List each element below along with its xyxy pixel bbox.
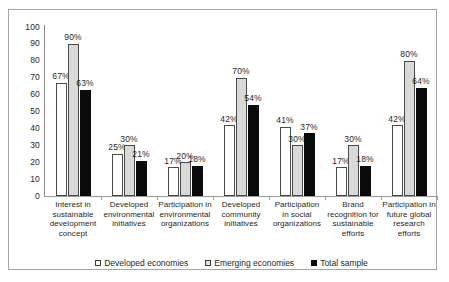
bar-value-label: 41%	[273, 116, 297, 125]
category-label-line: Interest in	[45, 200, 101, 210]
bar	[168, 167, 179, 196]
bar-value-label: 18%	[185, 155, 209, 164]
category-label-line: community	[213, 210, 269, 220]
y-axis-tick-20: 20	[14, 158, 40, 167]
bar	[180, 162, 191, 196]
category-label-line: sustainable	[45, 210, 101, 220]
x-axis-category-label: Brandrecognition forsustainableefforts	[325, 200, 381, 238]
bar-value-label: 30%	[117, 135, 141, 144]
bar	[68, 44, 79, 196]
x-axis-category-label: Participation inenvironmentalorganizatio…	[157, 200, 213, 229]
y-axis-tick-60: 60	[14, 90, 40, 99]
category-label-line: organizations	[269, 219, 325, 229]
category-label-line: sustainable	[325, 219, 381, 229]
y-axis-tick-labels: 1009080706050403020100	[9, 10, 40, 196]
category-label-line: research efforts	[381, 219, 437, 238]
y-axis-tick-70: 70	[14, 73, 40, 82]
bar-group: 17%30%18%	[325, 27, 381, 196]
bar	[56, 83, 67, 196]
category-label-line: Brand	[325, 200, 381, 210]
bar	[248, 105, 259, 196]
bar	[416, 88, 427, 196]
legend-label: Developed economies	[104, 258, 188, 268]
x-axis-category-labels: Interest insustainabledevelopmentconcept…	[45, 200, 437, 248]
x-axis-category-label: Developedenvironmentalinitiatives	[101, 200, 157, 229]
x-axis-tick	[157, 196, 158, 200]
y-axis-tick-30: 30	[14, 141, 40, 150]
bar	[224, 125, 235, 196]
chart-frame: 1009080706050403020100 67%90%63%25%30%21…	[8, 9, 437, 270]
category-label-line: concept	[45, 229, 101, 239]
legend-swatch-icon	[205, 260, 211, 266]
bar-value-label: 90%	[61, 33, 85, 42]
bar	[360, 166, 371, 196]
bar-group: 42%70%54%	[213, 27, 269, 196]
y-axis-tick-40: 40	[14, 124, 40, 133]
bar-value-label: 54%	[241, 94, 265, 103]
category-label-line: future global	[381, 210, 437, 220]
bar-group: 67%90%63%	[45, 27, 101, 196]
bar	[304, 133, 315, 196]
bar-group: 17%20%18%	[157, 27, 213, 196]
x-axis-tick	[269, 196, 270, 200]
y-axis-tick-50: 50	[14, 107, 40, 116]
bar-value-label: 80%	[397, 50, 421, 59]
legend-swatch-icon	[95, 260, 101, 266]
bar-group: 25%30%21%	[101, 27, 157, 196]
bar-group: 41%30%37%	[269, 27, 325, 196]
x-axis-tick	[381, 196, 382, 200]
bar	[348, 145, 359, 196]
category-label-line: Participation in	[381, 200, 437, 210]
bar-value-label: 63%	[73, 79, 97, 88]
chart-legend: Developed economiesEmerging economiesTot…	[17, 255, 446, 271]
legend-item-developed-economies[interactable]: Developed economies	[95, 258, 188, 268]
y-axis-tick-90: 90	[14, 39, 40, 48]
bar-value-label: 64%	[409, 77, 433, 86]
bar-value-label: 21%	[129, 150, 153, 159]
category-label-line: Participation	[269, 200, 325, 210]
bar-value-label: 37%	[297, 123, 321, 132]
category-label-line: recognition for	[325, 210, 381, 220]
legend-label: Emerging economies	[214, 258, 294, 268]
x-axis-tick	[437, 196, 438, 200]
y-axis-tick-100: 100	[14, 23, 40, 32]
bar-value-label: 18%	[353, 155, 377, 164]
x-axis-category-label: Participation infuture globalresearch ef…	[381, 200, 437, 238]
bar	[392, 125, 403, 196]
x-axis-category-label: Interest insustainabledevelopmentconcept	[45, 200, 101, 238]
bar	[192, 166, 203, 196]
bar-groups: 67%90%63%25%30%21%17%20%18%42%70%54%41%3…	[45, 27, 437, 196]
x-axis-category-label: Participationin socialorganizations	[269, 200, 325, 229]
y-axis-tick-0: 0	[14, 192, 40, 201]
x-axis-category-label: Developedcommunityinitiatives	[213, 200, 269, 229]
bar-value-label: 30%	[341, 135, 365, 144]
category-label-line: in social	[269, 210, 325, 220]
category-label-line: Developed	[101, 200, 157, 210]
bar	[80, 90, 91, 196]
bar	[336, 167, 347, 196]
category-label-line: organizations	[157, 219, 213, 229]
category-label-line: environmental	[101, 210, 157, 220]
x-axis-baseline	[45, 196, 437, 197]
chart-figure: 1009080706050403020100 67%90%63%25%30%21…	[0, 0, 449, 282]
legend-item-total-sample[interactable]: Total sample	[311, 258, 368, 268]
bar-group: 42%80%64%	[381, 27, 437, 196]
bar	[292, 145, 303, 196]
bar	[112, 154, 123, 196]
category-label-line: development	[45, 219, 101, 229]
category-label-line: environmental	[157, 210, 213, 220]
y-axis-tick-10: 10	[14, 175, 40, 184]
bar	[136, 161, 147, 196]
x-axis-tick	[325, 196, 326, 200]
x-axis-tick	[213, 196, 214, 200]
legend-label: Total sample	[320, 258, 368, 268]
legend-item-emerging-economies[interactable]: Emerging economies	[205, 258, 294, 268]
category-label-line: Developed	[213, 200, 269, 210]
legend-swatch-icon	[311, 260, 317, 266]
category-label-line: initiatives	[101, 219, 157, 229]
x-axis-tick	[101, 196, 102, 200]
y-axis-tick-80: 80	[14, 56, 40, 65]
category-label-line: Participation in	[157, 200, 213, 210]
bar-value-label: 70%	[229, 67, 253, 76]
category-label-line: efforts	[325, 229, 381, 239]
